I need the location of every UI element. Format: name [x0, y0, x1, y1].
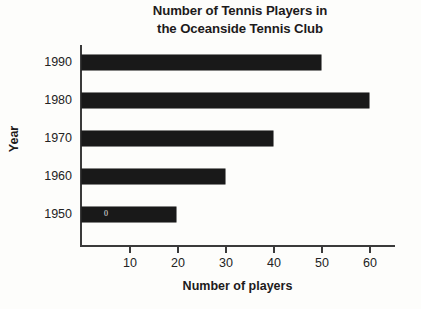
- x-axis-tick-mark-60: [369, 245, 371, 253]
- y-axis-tick-label-1950: 1950: [2, 207, 72, 221]
- x-axis-tick-mark-10: [129, 245, 131, 253]
- chart-title-line-1: Number of Tennis Players in: [90, 2, 390, 20]
- x-axis-tick-mark-40: [273, 245, 275, 253]
- y-axis-tick-labels: 1990 1980 1970 1960 1950: [0, 45, 72, 245]
- x-axis-tick-label-30: 30: [206, 256, 246, 270]
- bar-1980: [82, 93, 369, 108]
- y-axis-tick-label-1990: 1990: [2, 55, 72, 69]
- bar-1950: 0: [82, 207, 176, 222]
- bar-1960: [82, 169, 225, 184]
- x-axis-title: Number of players: [80, 279, 395, 293]
- x-axis-tick-mark-30: [225, 245, 227, 253]
- x-axis-tick-mark-50: [321, 245, 323, 253]
- x-axis-tick-label-40: 40: [254, 256, 294, 270]
- x-axis-tick-label-20: 20: [158, 256, 198, 270]
- chart-title-line-2: the Oceanside Tennis Club: [90, 20, 390, 38]
- scan-artifact-text: 0: [104, 210, 110, 218]
- bar-1990: [82, 55, 321, 70]
- chart-title: Number of Tennis Players in the Oceansid…: [90, 2, 390, 38]
- y-axis-tick-label-1980: 1980: [2, 93, 72, 107]
- x-axis-tick-mark-20: [177, 245, 179, 253]
- y-axis-tick-label-1960: 1960: [2, 169, 72, 183]
- y-axis-tick-label-1970: 1970: [2, 131, 72, 145]
- bar-1970: [82, 131, 273, 146]
- chart-page: Number of Tennis Players in the Oceansid…: [0, 0, 421, 309]
- x-axis-tick-label-60: 60: [350, 256, 390, 270]
- x-axis-tick-label-10: 10: [110, 256, 150, 270]
- x-axis-line: [80, 245, 395, 247]
- x-axis-tick-label-50: 50: [302, 256, 342, 270]
